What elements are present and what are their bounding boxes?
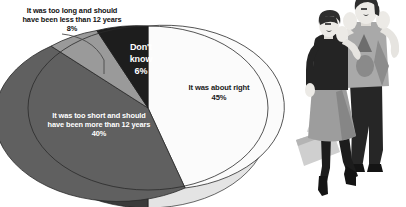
slice-label-too-long-line1: It was too long and should xyxy=(27,6,118,15)
figure-front-boot-left xyxy=(318,176,328,196)
figure-back-shoe-right xyxy=(367,164,383,172)
slice-label-too-long-line2: have been less than 12 years xyxy=(22,15,121,24)
slice-label-dont-know-line2: know xyxy=(130,54,153,64)
slice-label-about-right-line1: It was about right xyxy=(188,83,249,92)
slice-label-too-short-line1: It was too short and should xyxy=(52,111,145,120)
slice-value-dont-know: 6% xyxy=(135,66,148,76)
slice-label-dont-know-line1: Don't xyxy=(130,42,152,52)
slice-label-dont-know: Don't know 6% xyxy=(119,42,163,78)
chart-page: It was too long and should have been les… xyxy=(0,0,406,207)
slice-label-about-right: It was about right 45% xyxy=(166,84,272,103)
slice-label-too-long: It was too long and should have been les… xyxy=(2,7,142,34)
figure-front-eye xyxy=(325,23,331,25)
illustration-two-figures xyxy=(286,0,406,207)
two-figures-graphic xyxy=(286,0,406,207)
figure-back-eye xyxy=(361,8,367,10)
slice-value-too-short: 40% xyxy=(24,130,174,139)
slice-label-too-short: It was too short and should have been mo… xyxy=(24,112,174,139)
slice-label-too-short-line2: have been more than 12 years xyxy=(48,120,151,129)
slice-value-too-long: 8% xyxy=(2,25,142,34)
pie-chart: It was too long and should have been les… xyxy=(0,0,290,207)
figure-front-hand-left xyxy=(305,83,315,97)
figure-back-trousers xyxy=(350,84,383,168)
slice-value-about-right: 45% xyxy=(166,94,272,103)
